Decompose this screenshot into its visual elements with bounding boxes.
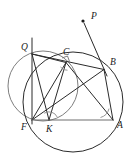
point-dot-P (81, 19, 84, 22)
label-B: B (110, 57, 116, 67)
geometry-canvas: P Q C B F K A (0, 0, 130, 162)
label-Q: Q (21, 42, 28, 52)
geometry-figure: P Q C B F K A (0, 0, 130, 162)
label-K: K (45, 124, 53, 134)
label-P: P (90, 11, 97, 21)
figure-background (0, 0, 130, 162)
label-A: A (116, 120, 123, 130)
label-F: F (20, 122, 27, 132)
points-group (81, 19, 84, 22)
label-C: C (63, 47, 70, 57)
